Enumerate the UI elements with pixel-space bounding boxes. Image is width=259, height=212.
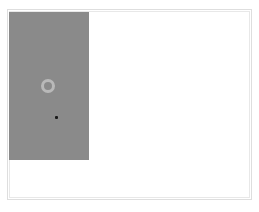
ring-icon[interactable] <box>41 79 55 93</box>
dot-cursor-icon <box>55 116 58 119</box>
